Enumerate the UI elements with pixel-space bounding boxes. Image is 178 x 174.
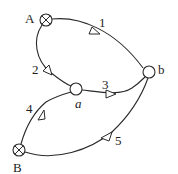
node-label-a: a xyxy=(75,96,82,111)
edge-label-4: 4 xyxy=(26,101,33,116)
edge-label-5: 5 xyxy=(115,133,122,148)
network-diagram: A B a b 1 2 3 4 5 xyxy=(0,0,178,174)
node-label-b: b xyxy=(158,62,165,77)
node-A xyxy=(40,14,52,26)
node-a xyxy=(70,83,82,95)
edge-label-3: 3 xyxy=(102,77,109,92)
edge-2 xyxy=(36,25,71,86)
edge-1 xyxy=(52,19,143,68)
edge-3 xyxy=(82,77,145,93)
node-B xyxy=(13,144,25,156)
arrow-icon-edge-4 xyxy=(38,110,45,120)
arrow-icon-edge-5 xyxy=(101,132,112,141)
node-b xyxy=(143,66,155,78)
edge-label-1: 1 xyxy=(99,15,106,30)
node-label-B: B xyxy=(13,160,22,174)
edge-4 xyxy=(21,92,71,144)
edge-label-2: 2 xyxy=(32,62,39,77)
node-label-A: A xyxy=(25,11,35,26)
